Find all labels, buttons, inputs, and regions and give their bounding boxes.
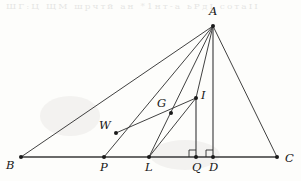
segment-WI [116,98,196,133]
vertex-dot-b [19,155,23,159]
vertex-dot-l [147,155,151,159]
vertex-dot-g [169,111,173,115]
vertex-label-d: D [209,162,218,174]
vertex-label-l: L [145,162,153,174]
geometry-figure: ШГ:Ц ЩМ шрчтй ан *1нт-а ьРдІ сотаІІ ABCP… [0,0,301,181]
vertex-label-q: Q [192,162,201,174]
edge-group [21,26,277,157]
vertex-dot-d [211,155,215,159]
segment-AB [21,26,213,157]
vertex-label-g: G [157,98,166,110]
vertex-label-a: A [209,6,217,18]
vertex-dot-q [194,155,198,159]
vertex-dot-p [102,155,106,159]
vertex-label-p: P [100,162,108,174]
vertex-dot-c [275,155,279,159]
vertex-dot-i [194,96,198,100]
vertex-label-b: B [6,160,14,172]
right-angle-group [189,150,213,157]
vertex-dot-w [114,131,118,135]
vertex-dot-group [19,24,279,159]
vertex-label-i: I [201,90,206,102]
vertex-dot-a [211,24,215,28]
segment-AC [213,26,277,157]
vertex-label-w: W [99,120,111,132]
geometry-canvas [0,0,301,181]
vertex-label-c: C [285,153,294,165]
